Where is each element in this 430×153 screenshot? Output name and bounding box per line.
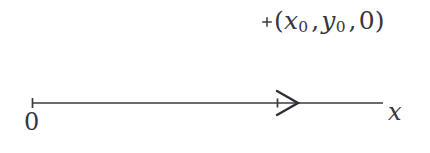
axis-origin-label: 0	[24, 110, 39, 134]
coordinate-y-symbol: y	[321, 6, 335, 35]
coordinate-open-paren: (	[274, 6, 284, 35]
coordinate-y-subscript: 0	[336, 18, 346, 36]
coordinate-x-symbol: x	[284, 6, 298, 35]
coordinate-x-subscript: 0	[298, 18, 308, 36]
coordinate-label: (x0,y0,0)	[274, 8, 385, 36]
coordinate-close-paren: )	[375, 6, 385, 35]
coordinate-z-value: 0	[359, 6, 375, 35]
x-axis-line	[0, 78, 430, 128]
axis-name-label: x	[388, 100, 402, 124]
axis-figure: (x0,y0,0) 0 x	[0, 0, 430, 153]
coordinate-comma-2: ,	[346, 6, 359, 35]
point-annotation: (x0,y0,0)	[261, 8, 385, 36]
coordinate-comma-1: ,	[308, 6, 321, 35]
plus-marker-icon	[261, 16, 273, 28]
